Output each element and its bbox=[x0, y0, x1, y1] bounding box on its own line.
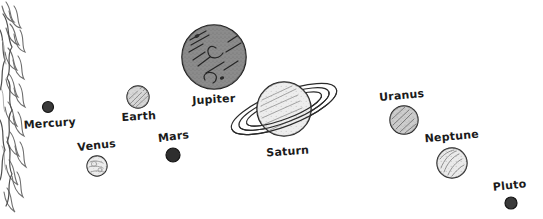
scene-canvas: Mercury Venus bbox=[0, 0, 543, 219]
jupiter-bands bbox=[182, 25, 246, 89]
mars-body bbox=[166, 148, 180, 162]
earth-label: Earth bbox=[121, 109, 156, 124]
pluto-body bbox=[505, 197, 517, 209]
jupiter-label: Jupiter bbox=[191, 92, 236, 107]
mercury-body bbox=[43, 102, 54, 113]
saturn-bands bbox=[257, 82, 311, 136]
solar-system-sketch: Mercury Venus bbox=[0, 0, 543, 219]
